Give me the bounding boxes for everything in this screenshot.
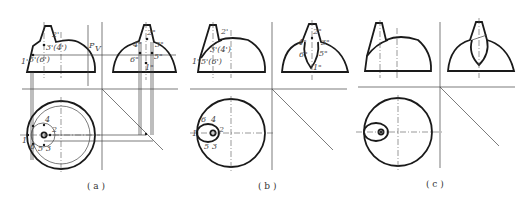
label-4dprime: 4" [132, 40, 142, 49]
label-5: 5 [38, 144, 43, 153]
label-3dprime: 3" [155, 40, 164, 49]
projection-diagram: 2' 3'(4') 1' 5'(6') P V 2" 4" 3" 6" 5" 1… [0, 0, 528, 201]
panel-b-front-view: 2' 3'(4') 1' 5'(6') [192, 22, 265, 78]
label-5prime-6prime: 5'(6') [201, 57, 222, 66]
label-1prime: 1' [21, 57, 28, 66]
label-2dprime: 2" [146, 28, 156, 37]
panel-c: ( c ) [356, 18, 515, 189]
label-6: 6 [30, 142, 35, 151]
label-2: 2 [218, 125, 224, 134]
label-1dprime: 1" [313, 63, 322, 72]
label-5: 5 [204, 142, 209, 151]
label-1prime: 1' [192, 57, 199, 66]
label-1dprime: 1" [145, 63, 154, 72]
label-1: 1 [192, 129, 197, 138]
label-3: 3 [46, 144, 51, 153]
panel-a: 2' 3'(4') 1' 5'(6') P V 2" 4" 3" 6" 5" 1… [20, 22, 178, 191]
panel-a-side-view: 2" 4" 3" 6" 5" 1" [113, 22, 176, 135]
panel-b: 2' 3'(4') 1' 5'(6') 2" 4" 3" 6" 5" 1" 6 [190, 20, 348, 191]
label-2prime: 2' [220, 27, 228, 36]
label-5prime-6prime: 5'(6') [29, 55, 50, 64]
label-5dprime: 5" [319, 49, 328, 58]
label-1: 1 [22, 136, 27, 145]
label-3prime-4prime: 3'(4') [210, 45, 231, 54]
label-plane-v: V [95, 44, 102, 53]
caption-a: ( a ) [87, 181, 105, 191]
label-6: 6 [201, 115, 206, 124]
label-6dprime: 6" [299, 50, 308, 59]
panel-b-top-view: 6 4 1 2 5 3 [190, 96, 275, 172]
caption-b: ( b ) [258, 181, 277, 191]
label-2dprime: 2" [312, 27, 322, 36]
label-3: 3 [212, 142, 217, 151]
label-4: 4 [210, 115, 216, 124]
label-4dprime: 4" [297, 38, 307, 47]
panel-c-front-view [365, 20, 431, 78]
label-3dprime: 3" [321, 38, 330, 47]
label-5dprime: 5" [154, 52, 163, 61]
caption-c: ( c ) [426, 179, 444, 189]
label-2prime: 2' [51, 30, 59, 39]
panel-c-side-view [448, 18, 514, 78]
label-6dprime: 6" [130, 55, 139, 64]
label-3prime-4prime: 3'(4') [46, 43, 67, 52]
label-2: 2 [51, 125, 57, 134]
panel-c-top-view [356, 95, 442, 172]
panel-b-side-view: 2" 4" 3" 6" 5" 1" [282, 20, 348, 80]
label-plane-p: P [88, 41, 95, 50]
label-4: 4 [44, 115, 50, 124]
